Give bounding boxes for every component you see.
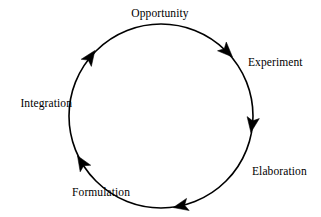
stage-label-elaboration: Elaboration	[252, 165, 307, 178]
stage-label-experiment: Experiment	[248, 56, 303, 69]
arrow-lower-left-icon	[72, 153, 90, 172]
cycle-diagram: Opportunity Experiment Elaboration Formu…	[0, 0, 321, 217]
stage-label-integration: Integration	[20, 97, 72, 110]
arrow-right-icon	[245, 117, 260, 134]
stage-label-opportunity: Opportunity	[131, 7, 188, 20]
arrow-bottom-icon	[172, 198, 189, 213]
stage-label-formulation: Formulation	[72, 186, 130, 199]
